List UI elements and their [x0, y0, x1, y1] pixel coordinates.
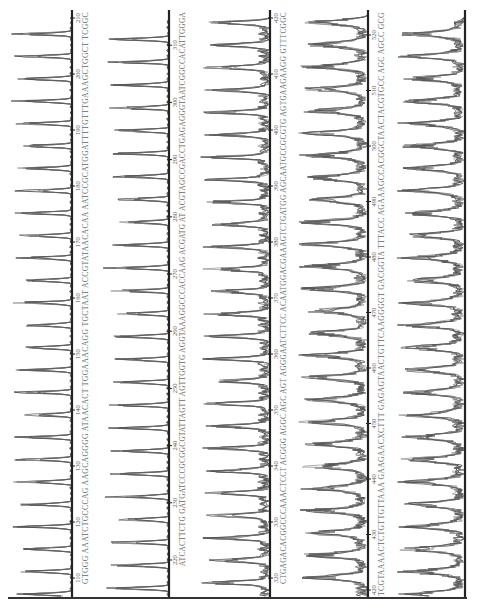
trace-line	[105, 14, 169, 596]
tick-label: 380	[272, 237, 279, 247]
tick-label: 180	[74, 181, 81, 191]
tick-label: 440	[370, 474, 377, 484]
tick-label: 250	[171, 384, 178, 394]
tick-label: 240	[171, 441, 178, 451]
tick-label: 280	[171, 212, 178, 222]
base-sequence: TCGTAAAACTCTGTTGTTAAA GAAGAACXCTTT GAGAG…	[378, 12, 386, 596]
tick-label: 490	[370, 197, 377, 207]
tick-label: 150	[74, 349, 81, 359]
tick-label: 110	[74, 573, 81, 583]
chromatogram-figure: 110120130140150160170180190200210GTGGG A…	[0, 0, 479, 616]
tick-label: 480	[370, 252, 377, 262]
tick-label: 290	[171, 155, 178, 165]
tick-label: 450	[370, 419, 377, 429]
tick-label: 330	[272, 517, 279, 527]
tick-label: 520	[370, 30, 377, 40]
tick-label: 190	[74, 125, 81, 135]
tick-label: 120	[74, 517, 81, 527]
tick-label: 320	[272, 573, 279, 583]
trace-line	[299, 14, 368, 596]
tick-label: 360	[272, 349, 279, 359]
base-sequence: ATCACTTCTG GATGATCCCGCGGCGTATTAGTT AGTTG…	[179, 12, 187, 566]
tick-label: 430	[370, 530, 377, 540]
tick-label: 260	[171, 326, 178, 336]
tick-label: 510	[370, 86, 377, 96]
tick-label: 370	[272, 293, 279, 303]
trace-line	[111, 14, 169, 596]
tick-label: 470	[370, 308, 377, 318]
tick-label: 410	[272, 69, 279, 79]
tick-label: 350	[272, 405, 279, 415]
tick-label: 390	[272, 181, 279, 191]
trace-layer	[11, 14, 465, 596]
tick-label: 160	[74, 293, 81, 303]
tick-label: 220	[171, 555, 178, 565]
tick-label: 130	[74, 461, 81, 471]
tick-label: 230	[171, 498, 178, 508]
tick-label: 210	[74, 13, 81, 23]
tick-label: 420	[370, 585, 377, 595]
base-sequence: GTGGG AAATCTGCCCAG AAGCAGGGG ATAACACT TG…	[82, 12, 90, 584]
trace-line	[202, 14, 270, 596]
trace-line	[109, 14, 169, 596]
tick-label: 500	[370, 141, 377, 151]
tick-label: 170	[74, 237, 81, 247]
trace-line	[103, 14, 169, 596]
tick-label: 310	[171, 40, 178, 50]
tick-label: 400	[272, 125, 279, 135]
tick-label: 200	[74, 69, 81, 79]
tick-label: 420	[272, 13, 279, 23]
tick-label: 140	[74, 405, 81, 415]
trace-line	[201, 14, 270, 596]
tick-label: 270	[171, 269, 178, 279]
tick-label: 300	[171, 98, 178, 108]
tick-label: 340	[272, 461, 279, 471]
base-sequence: CTGAGACACGGCCCAAACTCCT ACGGG AGGC AGC AG…	[280, 12, 288, 584]
tick-label: 460	[370, 363, 377, 373]
chromatogram-svg: 110120130140150160170180190200210GTGGG A…	[0, 0, 479, 616]
